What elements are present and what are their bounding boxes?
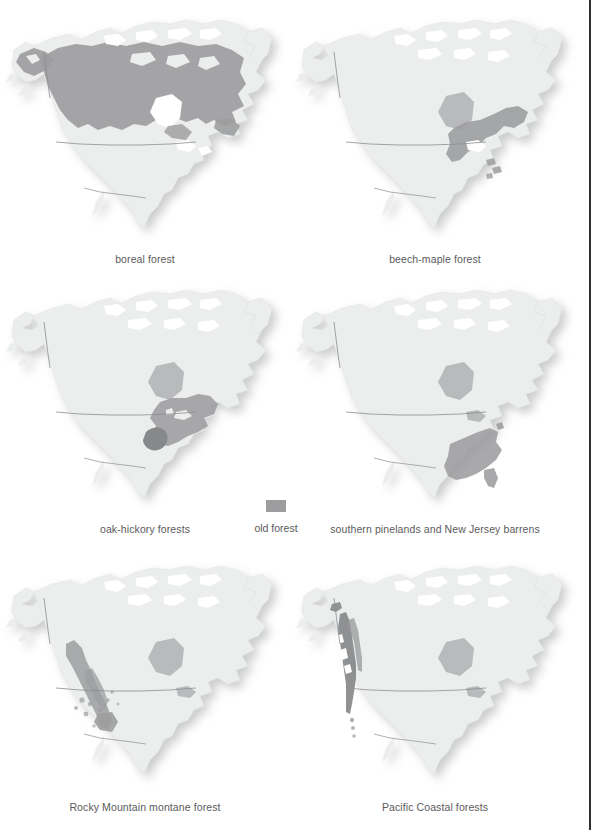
map-panel-beech-maple-forest: beech-maple forest bbox=[290, 2, 580, 266]
page-vertical-rule bbox=[589, 0, 591, 830]
old-forest-swatch bbox=[266, 500, 286, 512]
map-caption-pacific-coastal-forests: Pacific Coastal forests bbox=[290, 800, 580, 814]
map-oak-hickory-forests bbox=[0, 272, 290, 518]
map-panel-rocky-mountain-montane-forest: Rocky Mountain montane forest bbox=[0, 548, 290, 814]
map-beech-maple-forest bbox=[290, 2, 580, 248]
map-pacific-coastal-forests bbox=[290, 548, 580, 794]
map-grid: boreal forest bbox=[0, 0, 580, 830]
map-holder-southern-pinelands bbox=[290, 272, 580, 518]
map-holder-boreal-forest bbox=[0, 2, 290, 248]
map-panel-pacific-coastal-forests: Pacific Coastal forests bbox=[290, 548, 580, 814]
map-holder-beech-maple-forest bbox=[290, 2, 580, 248]
map-panel-oak-hickory-forests: oak-hickory forests bbox=[0, 272, 290, 536]
map-holder-oak-hickory-forests bbox=[0, 272, 290, 518]
map-caption-southern-pinelands: southern pinelands and New Jersey barren… bbox=[290, 522, 580, 536]
map-panel-boreal-forest: boreal forest bbox=[0, 2, 290, 266]
map-holder-rocky-mountain-montane-forest bbox=[0, 548, 290, 794]
map-holder-pacific-coastal-forests bbox=[290, 548, 580, 794]
map-panel-southern-pinelands: southern pinelands and New Jersey barren… bbox=[290, 272, 580, 536]
map-caption-boreal-forest: boreal forest bbox=[0, 252, 290, 266]
map-boreal-forest bbox=[0, 2, 290, 248]
legend-label-old-forest: old forest bbox=[228, 522, 324, 535]
figure-page: boreal forest bbox=[0, 0, 595, 830]
legend: old forest bbox=[228, 500, 324, 535]
map-southern-pinelands bbox=[290, 272, 580, 518]
map-caption-beech-maple-forest: beech-maple forest bbox=[290, 252, 580, 266]
map-rocky-mountain-montane-forest bbox=[0, 548, 290, 794]
map-caption-rocky-mountain-montane-forest: Rocky Mountain montane forest bbox=[0, 800, 290, 814]
